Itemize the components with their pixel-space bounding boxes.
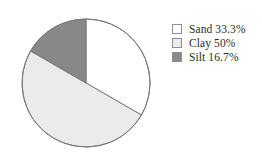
legend-item-clay[interactable]: Clay 50% (172, 36, 262, 50)
pie-chart-svg (20, 15, 156, 153)
legend-swatch-sand-icon (172, 24, 182, 34)
legend-swatch-clay-icon (172, 38, 182, 48)
pie-slice-group (22, 19, 150, 147)
legend-item-silt[interactable]: Silt 16.7% (172, 50, 262, 64)
legend-label-clay: Clay 50% (189, 37, 235, 50)
legend-item-sand[interactable]: Sand 33.3% (172, 22, 262, 36)
chart-legend: Sand 33.3% Clay 50% Silt 16.7% (172, 22, 262, 64)
pie-chart-figure: Sand 33.3% Clay 50% Silt 16.7% (0, 0, 262, 166)
pie-chart-plot-area (20, 15, 156, 153)
legend-label-sand: Sand 33.3% (189, 23, 246, 36)
legend-label-silt: Silt 16.7% (189, 51, 239, 64)
legend-swatch-silt-icon (172, 52, 182, 62)
